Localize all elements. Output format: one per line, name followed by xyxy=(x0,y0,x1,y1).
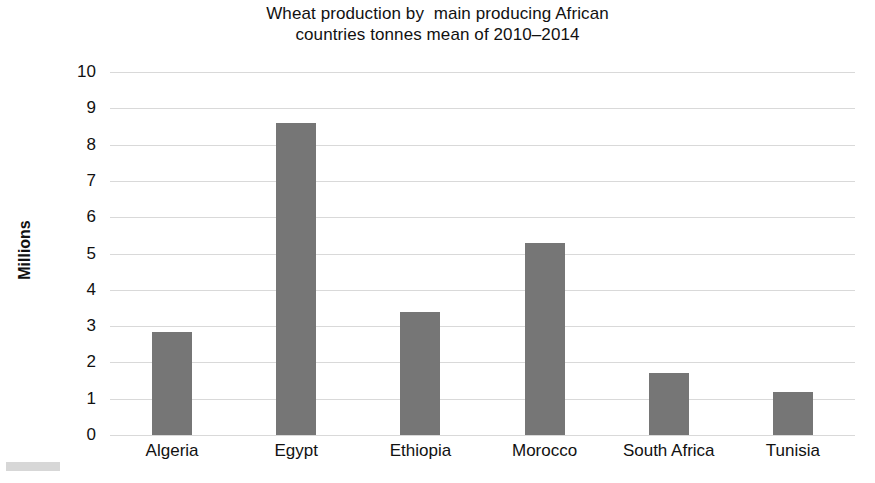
y-axis-tick-labels: 109876543210 xyxy=(50,72,96,435)
y-tick-label: 4 xyxy=(50,281,96,298)
bar[interactable] xyxy=(525,243,565,435)
category-label: Egypt xyxy=(234,440,358,462)
bar[interactable] xyxy=(773,392,813,435)
chart-title-line-1: Wheat production by main producing Afric… xyxy=(266,4,609,23)
bar-slot xyxy=(110,72,234,435)
y-axis-label: Millions xyxy=(16,190,40,310)
y-tick-label: 8 xyxy=(50,136,96,153)
category-label: South Africa xyxy=(607,440,731,462)
bar-slot xyxy=(483,72,607,435)
chart-title-line-2: countries tonnes mean of 2010–2014 xyxy=(295,25,579,44)
bar-chart-figure: Wheat production by main producing Afric… xyxy=(0,0,875,483)
y-tick-label: 7 xyxy=(50,172,96,189)
y-tick-label: 5 xyxy=(50,245,96,262)
bar-slot xyxy=(234,72,358,435)
plot-area xyxy=(110,72,855,435)
y-tick-label: 0 xyxy=(50,426,96,443)
bar[interactable] xyxy=(276,123,316,435)
category-label: Algeria xyxy=(110,440,234,462)
y-tick-label: 6 xyxy=(50,208,96,225)
bar[interactable] xyxy=(649,373,689,435)
y-tick-label: 9 xyxy=(50,99,96,116)
bar-slot xyxy=(358,72,482,435)
x-axis-category-labels: AlgeriaEgyptEthiopiaMoroccoSouth AfricaT… xyxy=(110,440,855,470)
chart-title: Wheat production by main producing Afric… xyxy=(0,3,875,45)
category-label: Tunisia xyxy=(731,440,855,462)
y-tick-label: 2 xyxy=(50,353,96,370)
category-label: Morocco xyxy=(483,440,607,462)
bar-slot xyxy=(607,72,731,435)
y-tick-label: 10 xyxy=(50,63,96,80)
category-label: Ethiopia xyxy=(358,440,482,462)
bar[interactable] xyxy=(400,312,440,435)
scan-artifact xyxy=(6,462,60,471)
bar[interactable] xyxy=(152,332,192,435)
y-tick-label: 1 xyxy=(50,390,96,407)
y-tick-label: 3 xyxy=(50,317,96,334)
bar-slot xyxy=(731,72,855,435)
gridline xyxy=(110,435,855,436)
